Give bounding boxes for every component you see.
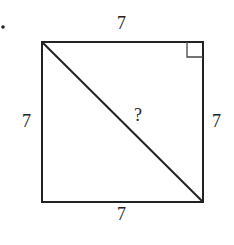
left-side-label: 7 bbox=[22, 112, 31, 130]
diagonal-label: ? bbox=[134, 106, 142, 124]
top-side-label: 7 bbox=[117, 14, 126, 32]
right-side-label: 7 bbox=[212, 112, 221, 130]
bullet-dot bbox=[1, 25, 5, 29]
right-angle-marker bbox=[187, 42, 203, 57]
diagonal-line bbox=[42, 42, 203, 202]
bottom-side-label: 7 bbox=[117, 205, 126, 223]
